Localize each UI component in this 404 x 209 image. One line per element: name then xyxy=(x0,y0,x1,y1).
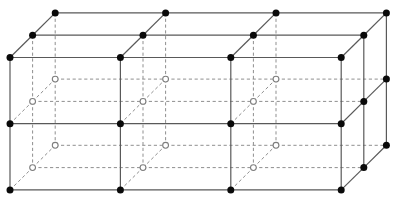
visible-edge xyxy=(364,145,387,167)
hidden-edge xyxy=(143,79,166,101)
hidden-edge xyxy=(231,101,254,123)
filled-vertex xyxy=(29,32,36,39)
visible-edge xyxy=(120,35,143,57)
filled-vertex xyxy=(7,54,14,61)
filled-vertex xyxy=(140,32,147,39)
open-vertex xyxy=(273,76,279,82)
filled-vertex xyxy=(383,76,390,83)
open-vertex xyxy=(251,99,257,105)
hidden-edge xyxy=(143,145,166,167)
hidden-edge xyxy=(231,168,254,190)
filled-vertex xyxy=(52,9,59,16)
filled-vertex xyxy=(338,54,345,61)
filled-vertex xyxy=(360,98,367,105)
visible-edge xyxy=(231,35,254,57)
visible-edge xyxy=(33,13,56,35)
hidden-edge xyxy=(253,79,276,101)
open-vertex xyxy=(52,76,58,82)
open-vertex xyxy=(30,165,36,171)
visible-edge xyxy=(341,168,364,190)
filled-vertex xyxy=(383,142,390,149)
open-vertex xyxy=(30,99,36,105)
hidden-edge xyxy=(10,101,33,123)
filled-vertex xyxy=(227,54,234,61)
filled-vertex xyxy=(338,120,345,127)
hidden-edge xyxy=(33,145,56,167)
filled-vertex xyxy=(360,164,367,171)
visible-edge xyxy=(364,79,387,101)
hidden-edge xyxy=(10,168,33,190)
hidden-edge xyxy=(253,145,276,167)
filled-vertex xyxy=(117,186,124,193)
visible-edge xyxy=(341,35,364,57)
visible-edge xyxy=(10,35,33,57)
filled-vertex xyxy=(360,32,367,39)
open-vertex xyxy=(251,165,257,171)
visible-edge xyxy=(253,13,276,35)
filled-vertex xyxy=(383,9,390,16)
filled-vertex xyxy=(7,120,14,127)
filled-vertex xyxy=(227,186,234,193)
open-vertex xyxy=(163,76,169,82)
hidden-edge xyxy=(33,79,56,101)
hidden-edges-layer xyxy=(10,13,386,190)
open-vertex xyxy=(273,142,279,148)
filled-vertex xyxy=(227,120,234,127)
hidden-edge xyxy=(120,101,143,123)
open-vertex xyxy=(140,99,146,105)
filled-vertex xyxy=(117,120,124,127)
filled-vertex xyxy=(273,9,280,16)
open-vertex xyxy=(163,142,169,148)
filled-vertex xyxy=(162,9,169,16)
visible-edge xyxy=(143,13,166,35)
filled-vertex xyxy=(250,32,257,39)
filled-vertex xyxy=(338,186,345,193)
cube-lattice-diagram xyxy=(0,0,404,209)
filled-vertex xyxy=(7,186,14,193)
open-vertex xyxy=(52,142,58,148)
visible-edge xyxy=(364,13,387,35)
visible-edge xyxy=(341,101,364,123)
lattice-svg xyxy=(0,0,404,209)
filled-vertex xyxy=(117,54,124,61)
open-vertex xyxy=(140,165,146,171)
hidden-edge xyxy=(120,168,143,190)
